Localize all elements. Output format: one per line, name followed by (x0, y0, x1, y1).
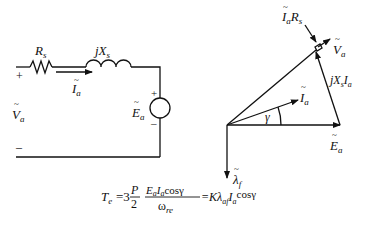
inductor (86, 60, 131, 67)
ea-phasor-tilde: ~ (332, 130, 337, 140)
plus-sign-source: + (151, 87, 157, 99)
frac2-num: EaIacosγ (145, 184, 184, 198)
gamma-arc (278, 107, 281, 125)
inductor-label: jXs (93, 43, 111, 60)
resistor (30, 61, 52, 73)
ia-phasor-label: Ia (299, 90, 309, 107)
ia-phasor-tilde: ~ (301, 82, 306, 92)
plus-sign-left: + (16, 69, 23, 83)
va-tilde: ~ (335, 34, 340, 44)
ia-rs-tilde: ~ (283, 2, 288, 12)
minus-sign-left: – (15, 140, 23, 154)
frac1-num: P (130, 183, 139, 197)
ea-phasor-label: Ea (329, 138, 343, 155)
current-tilde: ~ (74, 75, 79, 85)
lambda-f-label: λf (232, 172, 243, 189)
va-label: Va (333, 42, 346, 59)
voltage-tilde: ~ (14, 99, 19, 109)
source-label: Ea (131, 105, 145, 122)
terminal-voltage-label: Va (12, 107, 25, 124)
lambda-f-tilde: ~ (234, 164, 239, 174)
ia-rs-pointer (305, 25, 316, 42)
voltage-source (150, 98, 170, 118)
ia-vector (227, 100, 298, 125)
gamma-label: γ (265, 110, 270, 124)
eq-rhs: =KλafIacosγ (201, 188, 256, 206)
phasor-diagram: IaRs ~ Va ~ jXsIa Ia ~ γ Ea ~ λf ~ (227, 2, 352, 189)
equivalent-circuit: Rs jXs Ia ~ + – Va ~ + – Ea ~ (12, 43, 170, 157)
diagram-canvas: Rs jXs Ia ~ + – Va ~ + – Ea ~ IaRs ~ Va … (0, 0, 368, 229)
jxs-ia-vector (316, 52, 340, 125)
frac2-den: ωre (158, 199, 173, 215)
eq-lhs: Te (101, 189, 112, 206)
source-tilde: ~ (134, 97, 139, 107)
frac1-den: 2 (131, 197, 137, 211)
jxs-ia-label: jXsIa (328, 73, 352, 89)
torque-equation: Te =3 P 2 EaIacosγ ωre =KλafIacosγ (101, 183, 256, 215)
resistor-label: Rs (34, 43, 47, 60)
minus-sign-source: – (150, 117, 157, 129)
va-tip-arrow (318, 39, 330, 47)
eq-equals-3: =3 (116, 189, 130, 204)
